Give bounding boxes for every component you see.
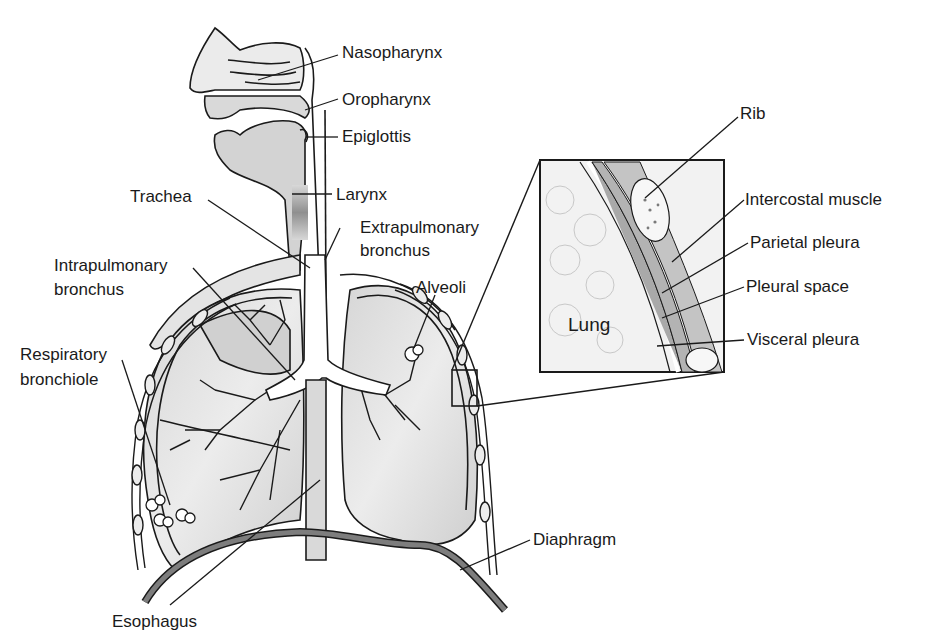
pleura-inset: [540, 160, 724, 372]
inset-label-intercostal-muscle: Intercostal muscle: [745, 190, 882, 210]
label-intrapulmonary-bronchus-2: bronchus: [54, 280, 124, 300]
label-alveoli: Alveoli: [416, 278, 466, 298]
label-oropharynx: Oropharynx: [342, 90, 431, 110]
label-esophagus: Esophagus: [112, 612, 197, 632]
label-respiratory-bronchiole-1: Respiratory: [20, 345, 107, 365]
left-lung: [330, 286, 477, 545]
label-intrapulmonary-bronchus-1: Intrapulmonary: [54, 256, 167, 276]
label-extrapulmonary-bronchus-2: bronchus: [360, 241, 430, 261]
inset-label-pleural-space: Pleural space: [746, 277, 849, 297]
label-diaphragm: Diaphragm: [533, 530, 616, 550]
label-extrapulmonary-bronchus-1: Extrapulmonary: [360, 218, 479, 238]
label-trachea: Trachea: [130, 187, 192, 207]
inset-label-visceral-pleura: Visceral pleura: [747, 330, 859, 350]
respiratory-diagram: [0, 0, 925, 638]
label-nasopharynx: Nasopharynx: [342, 43, 442, 63]
label-epiglottis: Epiglottis: [342, 127, 411, 147]
inset-label-parietal-pleura: Parietal pleura: [750, 233, 860, 253]
inset-label-rib: Rib: [740, 104, 766, 124]
label-larynx: Larynx: [336, 185, 387, 205]
inset-label-lung: Lung: [568, 315, 610, 335]
label-respiratory-bronchiole-2: bronchiole: [20, 370, 98, 390]
